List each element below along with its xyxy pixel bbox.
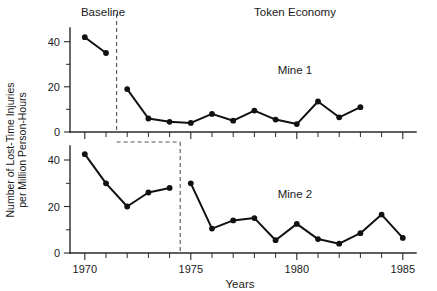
series-mine1-baseline	[82, 34, 109, 56]
chart-canvas: Baseline Token Economy Number of Lost-Ti…	[0, 0, 437, 291]
phase-label-baseline: Baseline	[81, 6, 125, 18]
data-point	[82, 34, 88, 40]
x-axis-title: Years	[226, 278, 255, 290]
panel1-y-tick-label-40: 40	[48, 36, 60, 48]
data-point	[103, 50, 109, 56]
panel2-y-tick-label-20: 20	[48, 201, 60, 213]
data-point	[252, 215, 258, 221]
series-label-mine-2: Mine 2	[278, 188, 313, 200]
data-point	[379, 212, 385, 218]
panel1-y-ticks	[64, 42, 70, 132]
panel2-y-ticks	[64, 160, 70, 253]
panel1-y-tick-label-0: 0	[54, 126, 60, 138]
panel2-x-ticks	[85, 253, 403, 260]
data-point	[358, 104, 364, 110]
data-point	[124, 204, 130, 210]
panel1-x-ticks	[85, 132, 403, 139]
y-axis-title-line2: per Million Person-Hours	[16, 92, 28, 208]
data-point	[188, 180, 194, 186]
x-tick-label-1975: 1975	[179, 263, 203, 275]
panel2-y-tick-label-0: 0	[54, 247, 60, 259]
panel-mine-1: 0 20 40	[48, 14, 416, 139]
data-point	[315, 236, 321, 242]
data-point	[400, 235, 406, 241]
data-point	[209, 111, 215, 117]
data-point	[273, 237, 279, 243]
data-point	[167, 185, 173, 191]
data-point	[252, 108, 258, 114]
data-point	[230, 218, 236, 224]
data-point	[209, 226, 215, 232]
data-point	[146, 116, 152, 122]
panel2-y-tick-label-40: 40	[48, 154, 60, 166]
data-point	[294, 121, 300, 127]
panel-mine-2: 0 20 40	[48, 142, 416, 290]
chart-figure: Baseline Token Economy Number of Lost-Ti…	[0, 0, 437, 291]
data-point	[124, 86, 130, 92]
y-axis-title-line1: Number of Lost-Time Injuries	[4, 83, 16, 218]
panel1-y-tick-label-20: 20	[48, 81, 60, 93]
y-axis-title: Number of Lost-Time Injuries per Million…	[4, 83, 28, 218]
x-tick-label-1970: 1970	[73, 263, 97, 275]
data-point	[230, 118, 236, 124]
phase-label-token-economy: Token Economy	[254, 6, 336, 18]
data-point	[336, 241, 342, 247]
x-tick-label-1980: 1980	[285, 263, 309, 275]
data-point	[146, 190, 152, 196]
data-point	[358, 230, 364, 236]
x-tick-label-1985: 1985	[391, 263, 415, 275]
data-point	[336, 114, 342, 120]
data-point	[294, 221, 300, 227]
series-mine1-token-economy	[124, 86, 363, 127]
data-point	[103, 180, 109, 186]
data-point	[82, 151, 88, 157]
data-point	[315, 99, 321, 105]
data-point	[273, 117, 279, 123]
series-label-mine-1: Mine 1	[278, 64, 313, 76]
data-point	[167, 119, 173, 125]
series-mine2-baseline	[82, 151, 173, 209]
data-point	[188, 120, 194, 126]
